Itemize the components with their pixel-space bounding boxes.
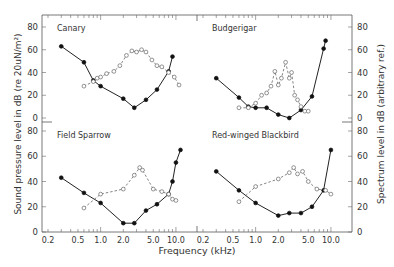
spectrum-point: [99, 75, 103, 79]
spectrum-point: [144, 50, 148, 54]
threshold-point: [155, 202, 159, 206]
x-tick-label: 0.2: [42, 236, 55, 245]
spectrum-point: [150, 58, 154, 62]
x-tick-label: 2.0: [117, 236, 130, 245]
spectrum-point: [329, 192, 333, 196]
spectrum-point: [155, 64, 159, 68]
right-y-tick-label: 80: [357, 22, 368, 32]
threshold-point: [144, 98, 148, 102]
spectrum-point: [130, 49, 134, 53]
right-y-axis-label: Spectrum level in dB (arbitrary ref.): [376, 44, 386, 204]
threshold-line: [61, 150, 180, 223]
threshold-point: [99, 84, 103, 88]
x-tick-label: 10.0: [322, 236, 340, 245]
spectrum-point: [269, 84, 273, 88]
spectrum-point: [167, 192, 171, 196]
threshold-point: [82, 191, 86, 195]
x-tick-label: 0.2: [197, 236, 210, 245]
spectrum-point: [287, 171, 291, 175]
panel-title: Canary: [57, 24, 86, 33]
threshold-point: [144, 209, 148, 213]
threshold-point: [329, 148, 333, 152]
spectrum-point: [105, 72, 109, 76]
threshold-point: [276, 113, 280, 117]
spectrum-point: [299, 105, 303, 109]
spectrum-point: [82, 206, 86, 210]
spectrum-point: [254, 101, 258, 105]
left-y-tick-label: 0: [33, 227, 38, 237]
spectrum-point: [276, 177, 280, 181]
left-y-tick-label: 20: [27, 202, 38, 212]
threshold-point: [214, 76, 218, 80]
x-tick-label: 10.0: [167, 236, 185, 245]
threshold-point: [121, 97, 125, 101]
spectrum-point: [284, 60, 288, 64]
threshold-point: [287, 211, 291, 215]
x-tick-label: 2.0: [272, 236, 285, 245]
spectrum-point: [118, 64, 122, 68]
chart-panels: CanaryBudgerigarField SparrowRed-winged …: [57, 24, 333, 225]
spectrum-point: [121, 187, 125, 191]
x-tick-label: 0.5: [227, 236, 240, 245]
spectrum-point: [237, 200, 241, 204]
left-y-tick-label: 80: [27, 126, 38, 136]
spectrum-point: [112, 69, 116, 73]
right-y-tick-label: 60: [357, 151, 368, 161]
spectrum-point: [287, 76, 291, 80]
threshold-point: [59, 44, 63, 48]
x-tick-label: 5.0: [147, 236, 160, 245]
spectrum-point: [177, 83, 181, 87]
spectrum-point: [160, 65, 164, 69]
threshold-point: [324, 39, 328, 43]
right-y-tick-label: 40: [357, 177, 368, 187]
spectrum-point: [296, 98, 300, 102]
threshold-point: [310, 94, 314, 98]
threshold-point: [171, 180, 175, 184]
spectrum-point: [301, 170, 305, 174]
spectrum-point: [160, 190, 164, 194]
spectrum-point: [172, 75, 176, 79]
left-y-tick-label: 40: [27, 68, 38, 78]
x-axis-label: Frequency (kHz): [158, 245, 235, 256]
threshold-line: [61, 46, 172, 108]
spectrum-line: [84, 168, 176, 208]
threshold-point: [155, 88, 159, 92]
threshold-point: [179, 148, 183, 152]
threshold-point: [132, 106, 136, 110]
left-y-tick-label: 0: [33, 113, 38, 123]
spectrum-point: [265, 91, 269, 95]
audiogram-chart: 0.20.51.02.05.010.00.20.51.02.05.010.000…: [0, 0, 394, 267]
spectrum-point: [82, 84, 86, 88]
panel-canary: Canary: [57, 24, 181, 110]
threshold-point: [82, 60, 86, 64]
threshold-point: [132, 221, 136, 225]
spectrum-point: [246, 106, 250, 110]
threshold-point: [254, 106, 258, 110]
spectrum-point: [254, 185, 258, 189]
spectrum-point: [141, 168, 145, 172]
threshold-point: [265, 106, 269, 110]
panel-budgerigar: Budgerigar: [212, 24, 328, 120]
plot-frame: 0.20.51.02.05.010.00.20.51.02.05.010.000…: [27, 15, 368, 245]
spectrum-point: [324, 188, 328, 192]
spectrum-point: [292, 166, 296, 170]
spectrum-point: [280, 76, 284, 80]
left-y-tick-label: 60: [27, 151, 38, 161]
panel-red-winged-blackbird: Red-winged Blackbird: [212, 131, 333, 217]
panel-title: Budgerigar: [212, 24, 257, 33]
panel-title: Field Sparrow: [57, 131, 111, 140]
left-y-tick-label: 40: [27, 177, 38, 187]
panel-title: Red-winged Blackbird: [212, 131, 299, 140]
panel-field-sparrow: Field Sparrow: [57, 131, 182, 225]
spectrum-point: [140, 48, 144, 52]
spectrum-point: [306, 109, 310, 113]
right-y-tick-label: 20: [357, 90, 368, 100]
right-y-tick-label: 80: [357, 126, 368, 136]
threshold-point: [237, 188, 241, 192]
threshold-point: [322, 47, 326, 51]
spectrum-point: [273, 69, 277, 73]
spectrum-point: [99, 192, 103, 196]
threshold-point: [276, 214, 280, 218]
spectrum-point: [125, 54, 129, 58]
right-y-tick-label: 20: [357, 202, 368, 212]
